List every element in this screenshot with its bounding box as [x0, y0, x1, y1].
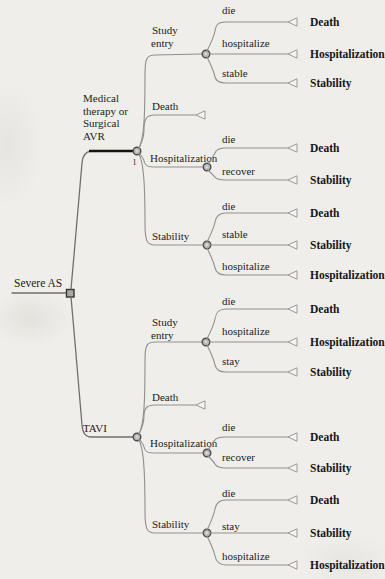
terminal-node-icon — [288, 496, 297, 504]
chance-node-dot — [136, 150, 139, 153]
outcome-label: Death — [310, 431, 340, 443]
branch-line-die — [208, 437, 288, 450]
branch-label-hospitalization: Hospitalization — [150, 437, 218, 449]
branch-label-recover: recover — [222, 165, 255, 177]
branch-label-stability: Stability — [152, 230, 190, 242]
branch-line-die — [207, 500, 288, 530]
decision-node-icon — [67, 290, 75, 298]
root-label: Severe AS — [14, 277, 62, 289]
chance-node-dot — [206, 244, 209, 247]
branch-label-stable: stable — [222, 67, 248, 79]
branch-label-medical-3: Surgical — [83, 117, 119, 129]
terminal-node-icon — [288, 79, 297, 87]
branch-label-stay: stay — [222, 520, 240, 532]
branch-label-die: die — [222, 487, 236, 499]
branch-label-die: die — [222, 200, 236, 212]
outcome-label: Death — [310, 303, 340, 315]
outcome-label: Stability — [310, 239, 352, 252]
branch-label-death: Death — [152, 391, 179, 403]
branch-label-die: die — [222, 295, 236, 307]
terminal-node-icon — [288, 18, 297, 26]
outcome-label: Death — [310, 142, 340, 154]
outcome-label: Stability — [310, 77, 352, 90]
branch-label-medical-4: AVR — [83, 130, 105, 142]
branch-label-hospitalize: hospitalize — [222, 325, 270, 337]
outcome-label: Death — [310, 494, 340, 506]
outcome-label: Stability — [310, 366, 352, 379]
decision-tree-figure: Severe AS Medical therapy or Surgical AV… — [0, 0, 385, 579]
branch-label-hospitalize: hospitalize — [222, 37, 270, 49]
terminal-node-icon — [288, 338, 297, 346]
outcome-label: Hospitalization — [310, 336, 385, 349]
terminal-node-icon — [288, 464, 297, 472]
outcome-label: Hospitalization — [310, 48, 385, 61]
branch-label-stability: Stability — [152, 518, 190, 530]
branch-line-medical — [71, 151, 91, 289]
branch-label-medical-2: therapy or — [83, 105, 128, 117]
branch-label-death: Death — [152, 100, 179, 112]
branch-label-study: Study — [152, 316, 178, 328]
branch-label-entry: entry — [151, 37, 174, 49]
terminal-node-icon — [288, 176, 297, 184]
chance-node-dot — [136, 436, 139, 439]
terminal-node-icon — [288, 241, 297, 249]
branch-label-entry: entry — [151, 329, 174, 341]
branch-label-stay: stay — [222, 355, 240, 367]
outcome-label: Death — [310, 16, 340, 28]
branch-label-hospitalization: Hospitalization — [150, 152, 218, 164]
terminal-node-icon — [288, 271, 297, 279]
terminal-node-icon — [288, 305, 297, 313]
chance-node-dot — [206, 166, 209, 169]
chance-node-dot — [205, 341, 208, 344]
branch-label-die: die — [222, 4, 236, 16]
terminal-node-icon — [288, 529, 297, 537]
branch-label-hospitalize: hospitalize — [222, 260, 270, 272]
outcome-label: Hospitalization — [310, 269, 385, 282]
branch-label-stable: stable — [222, 228, 248, 240]
branch-label-recover: recover — [222, 451, 255, 463]
terminal-node-icon — [196, 401, 205, 409]
chance-node-dot — [206, 532, 209, 535]
branch-label-die: die — [222, 421, 236, 433]
outcome-label: Death — [310, 207, 340, 219]
branch-line-death — [139, 115, 196, 148]
terminal-node-icon — [288, 50, 297, 58]
terminal-node-icon — [288, 209, 297, 217]
node-number: 1 — [133, 158, 137, 167]
terminal-node-icon — [288, 368, 297, 376]
branch-line-stay — [207, 345, 288, 372]
outcome-label: Hospitalization — [310, 559, 385, 572]
terminal-node-icon — [196, 111, 205, 119]
branch-line-study-entry — [139, 342, 202, 434]
branch-label-die: die — [222, 133, 236, 145]
branch-label-study: Study — [152, 24, 178, 36]
terminal-node-icon — [288, 561, 297, 569]
chance-node-dot — [205, 53, 208, 56]
terminal-node-icon — [288, 433, 297, 441]
terminal-node-icon — [288, 144, 297, 152]
branch-label-medical-1: Medical — [83, 92, 119, 104]
branch-label-tavi: TAVI — [83, 422, 107, 434]
outcome-label: Stability — [310, 462, 352, 475]
branch-label-hospitalize: hospitalize — [222, 550, 270, 562]
outcome-label: Stability — [310, 527, 352, 540]
chance-node-dot — [206, 452, 209, 455]
branch-line-death — [139, 405, 196, 434]
branch-line-tavi — [71, 297, 133, 437]
outcome-label: Stability — [310, 174, 352, 187]
branch-line-die — [208, 148, 288, 164]
